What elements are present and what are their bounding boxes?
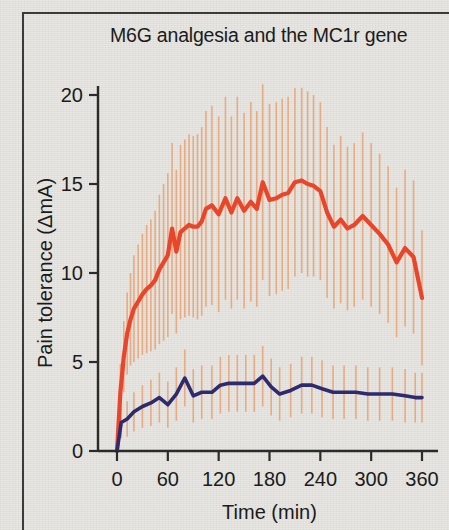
x-tick-label-60: 60 xyxy=(157,468,179,490)
x-tick-label-180: 180 xyxy=(253,468,286,490)
y-tick-label-20: 20 xyxy=(61,84,83,106)
y-tick-label-0: 0 xyxy=(72,440,83,462)
x-tick-label-120: 120 xyxy=(202,468,235,490)
y-tick-label-5: 5 xyxy=(72,351,83,373)
y-axis-title: Pain tolerance (ΔmA) xyxy=(34,178,56,368)
x-tick-label-300: 300 xyxy=(354,468,387,490)
x-tick-label-360: 360 xyxy=(405,468,438,490)
x-tick-label-0: 0 xyxy=(111,468,122,490)
x-axis-title: Time (min) xyxy=(222,501,317,523)
series-line-1 xyxy=(117,376,422,451)
y-tick-label-15: 15 xyxy=(61,173,83,195)
x-tick-label-240: 240 xyxy=(304,468,337,490)
figure-canvas: M6G analgesia and the MC1r gene 05101520… xyxy=(0,0,449,530)
pain-tolerance-line-chart: 05101520060120180240300360Time (min)Pain… xyxy=(0,0,449,530)
y-tick-label-10: 10 xyxy=(61,262,83,284)
axis-labels-layer: 05101520060120180240300360Time (min)Pain… xyxy=(34,84,439,523)
